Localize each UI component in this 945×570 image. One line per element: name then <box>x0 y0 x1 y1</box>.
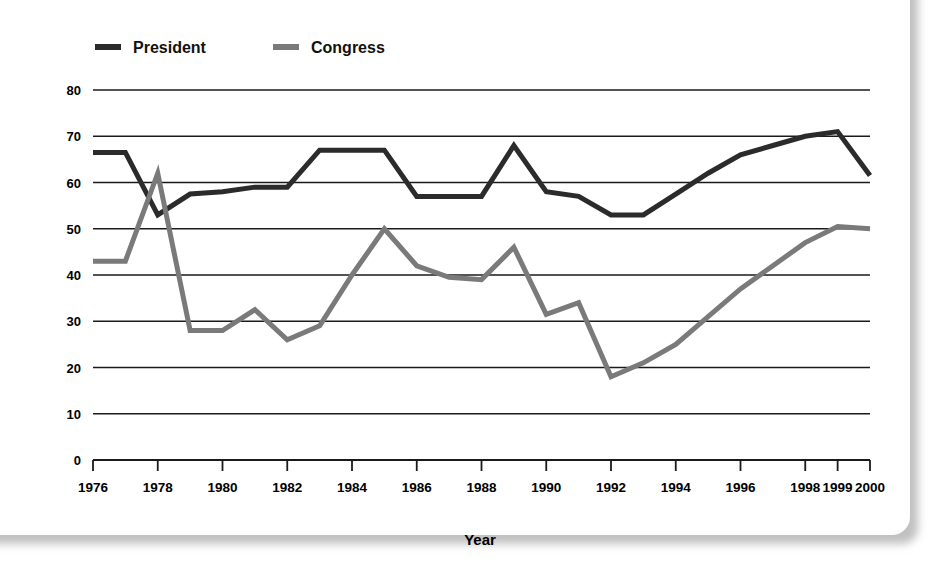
y-tick-label: 80 <box>67 83 81 98</box>
y-tick-label: 70 <box>67 129 81 144</box>
x-tick-label: 1980 <box>207 480 237 495</box>
approval-line-chart: PresidentCongress 01020304050607080 1976… <box>0 0 945 570</box>
x-tick-label: 1982 <box>272 480 302 495</box>
data-series <box>93 132 870 377</box>
y-tick-label: 50 <box>67 222 81 237</box>
y-tick-label: 60 <box>67 176 81 191</box>
legend-label: President <box>133 39 207 56</box>
x-tick-label: 1990 <box>531 480 561 495</box>
y-tick-label: 40 <box>67 268 81 283</box>
chart-legend: PresidentCongress <box>95 39 385 56</box>
y-tick-label: 30 <box>67 314 81 329</box>
x-tick-label: 1996 <box>725 480 756 495</box>
chart-canvas: PresidentCongress 01020304050607080 1976… <box>0 0 945 570</box>
x-tick-label: 1994 <box>661 480 692 495</box>
y-tick-label: 0 <box>74 453 81 468</box>
x-tick-label: 1999 <box>823 480 853 495</box>
x-tick-label: 1998 <box>790 480 821 495</box>
x-axis <box>93 460 870 471</box>
x-tick-label: 2000 <box>855 480 885 495</box>
x-axis-label: Year <box>464 531 496 548</box>
y-axis-ticks: 01020304050607080 <box>67 83 81 468</box>
series-line-president <box>93 132 870 215</box>
x-tick-label: 1992 <box>596 480 626 495</box>
legend-label: Congress <box>311 39 385 56</box>
legend-entry-president: President <box>95 39 207 56</box>
y-tick-label: 10 <box>67 407 81 422</box>
x-axis-ticks: 1976197819801982198419861988199019921994… <box>78 480 885 495</box>
y-tick-label: 20 <box>67 361 81 376</box>
x-tick-label: 1988 <box>466 480 497 495</box>
x-tick-label: 1978 <box>143 480 174 495</box>
x-tick-label: 1986 <box>402 480 433 495</box>
x-tick-label: 1984 <box>337 480 368 495</box>
chart-page: PresidentCongress 01020304050607080 1976… <box>0 0 945 570</box>
legend-entry-congress: Congress <box>273 39 385 56</box>
gridlines <box>93 90 870 414</box>
x-tick-label: 1976 <box>78 480 109 495</box>
